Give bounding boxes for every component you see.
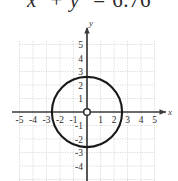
coordinate-plane-svg: x y -5 -4 -3 -2 -1 1 2 3 4 5 5 4 3 2	[0, 18, 178, 181]
equation-plus-operator: +	[50, 0, 64, 12]
y-tick-label: 1	[78, 94, 83, 104]
equation-exponent-x: 2	[37, 0, 44, 2]
equation-equals-operator: =	[92, 0, 106, 12]
y-tick-label: -3	[75, 148, 83, 158]
equation-variable-x: x	[27, 0, 37, 12]
x-axis-arrowhead	[160, 109, 167, 114]
x-tick-label: -2	[56, 115, 64, 125]
equation-variable-y: y	[70, 0, 80, 12]
y-tick-label: -2	[75, 135, 83, 145]
x-tick-label: 3	[125, 115, 130, 125]
equation-text: x2 + y2 = 6.76	[0, 0, 178, 13]
y-tick-label: 4	[78, 54, 83, 64]
x-tick-label: 5	[152, 115, 157, 125]
x-tick-label: -5	[16, 115, 24, 125]
x-tick-label: 1	[98, 115, 103, 125]
x-tick-label: -3	[43, 115, 51, 125]
y-tick-label: -1	[75, 121, 83, 131]
coordinate-plane: x y -5 -4 -3 -2 -1 1 2 3 4 5 5 4 3 2	[0, 18, 178, 181]
x-tick-label: -4	[29, 115, 37, 125]
axes	[12, 28, 166, 181]
equation-right-hand-value: 6.76	[112, 0, 151, 12]
y-axis-label: y	[88, 18, 93, 28]
y-tick-label: 2	[78, 81, 83, 91]
y-tick-label: -4	[75, 162, 83, 172]
y-tick-labels: 5 4 3 2 1 -1 -2 -3 -4	[75, 40, 83, 172]
y-tick-label: 5	[78, 40, 83, 50]
x-axis-label: x	[167, 107, 172, 117]
y-tick-label: 3	[78, 67, 83, 77]
origin-marker-icon	[84, 109, 91, 116]
x-tick-label: 4	[139, 115, 144, 125]
equation-exponent-y: 2	[79, 0, 86, 2]
figure-container: x2 + y2 = 6.76	[0, 0, 178, 181]
x-tick-label: 2	[112, 115, 117, 125]
